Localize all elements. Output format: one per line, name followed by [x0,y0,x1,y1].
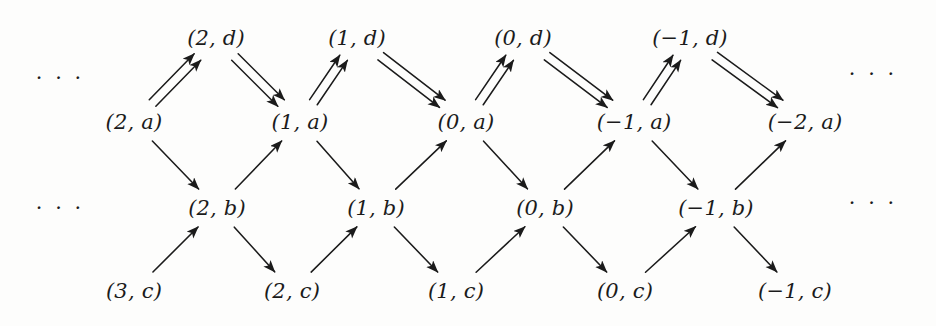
node-label-m1d: (−1, d) [652,28,728,49]
arrow-1d-to-0a-2 [378,60,440,107]
node-label-3c: (3, c) [106,281,162,302]
arrow-0d-to-m1a-1 [550,53,613,101]
node-label-2c: (2, c) [264,281,320,302]
arrow-2a-to-2b [152,141,198,189]
arrow-layer [0,0,936,326]
node-label-0c: (0, c) [597,281,653,302]
arrow-1a-to-1b [317,141,359,189]
arrow-1d-to-0a-1 [384,53,446,100]
arrow-1b-to-0a [396,141,447,189]
arrow-0a-to-0b [484,141,528,189]
ellipsis-left-top: · · · [36,68,84,89]
node-label-0a: (0, a) [438,112,495,133]
arrow-0c-to-m1b [646,227,696,273]
arrow-m1b-to-m2a [736,141,786,189]
node-label-1a: (1, a) [272,112,329,133]
arrow-2a-to-2d-2 [156,60,201,106]
node-label-1b: (1, b) [347,198,405,219]
node-label-2a: (2, a) [106,112,163,133]
arrow-m1d-to-m2a-1 [718,52,783,100]
node-label-1d: (1, d) [328,28,386,49]
arrow-2d-to-1a-2 [232,60,278,106]
arrow-2b-to-2c [234,227,274,272]
node-label-m1b: (−1, b) [678,198,754,219]
ellipsis-left-bottom: · · · [36,198,84,219]
node-label-1c: (1, c) [428,281,484,302]
arrow-1b-to-1c [394,227,437,272]
ellipsis-right-bottom: · · · [849,193,897,214]
arrow-2d-to-1a-1 [238,54,284,100]
node-label-2b: (2, b) [188,198,246,219]
arrow-m1b-to-m1c [734,227,777,272]
arrow-2b-to-1a [235,141,281,189]
arrow-0d-to-m1a-2 [544,60,607,108]
arrow-1c-to-0b [476,227,525,272]
edge-group [149,52,785,272]
node-label-m1c: (−1, c) [758,281,832,302]
arrow-2a-to-2d-1 [149,54,194,100]
node-label-0d: (0, d) [494,28,552,49]
diagram-canvas: (2, d)(1, d)(0, d)(−1, d)(2, a)(1, a)(0,… [0,0,936,326]
node-label-2d: (2, d) [187,28,245,49]
node-label-m1a: (−1, a) [597,112,672,133]
arrow-0b-to-0c [563,227,606,272]
ellipsis-right-top: · · · [849,64,897,85]
arrow-2c-to-1b [311,227,357,272]
arrow-3c-to-2b [153,227,198,272]
arrow-m1d-to-m2a-2 [712,60,777,108]
node-label-0b: (0, b) [516,198,574,219]
arrow-0b-to-m1a [565,141,615,189]
node-label-m2a: (−2, a) [768,112,843,133]
arrow-m1a-to-m1b [652,141,698,189]
